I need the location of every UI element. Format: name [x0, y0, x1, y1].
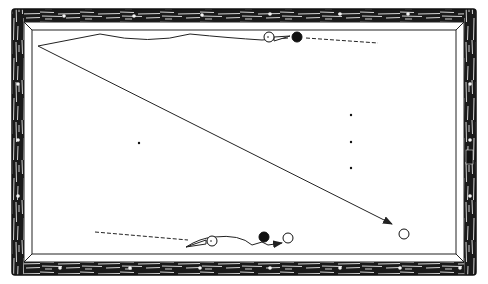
- diamond-left: [16, 194, 20, 198]
- bottom-rail: [12, 262, 476, 275]
- bottom-white-ball: [283, 233, 293, 243]
- billiards-diagram: [0, 0, 488, 284]
- bottom-cue-ball-spot: [210, 240, 212, 242]
- diamond-top: [132, 14, 136, 18]
- diamond-right: [468, 138, 472, 142]
- spot: [350, 141, 352, 143]
- diamond-bottom: [268, 266, 272, 270]
- diamond-right: [468, 194, 472, 198]
- diamond-bottom: [128, 266, 132, 270]
- top-cue-ball-spot: [267, 36, 269, 38]
- bottom-cue-ball: [207, 236, 217, 246]
- playing-surface: [32, 30, 456, 254]
- diamond-bottom: [58, 266, 62, 270]
- spot: [350, 114, 352, 116]
- diamond-top: [200, 13, 204, 17]
- diamond-bottom: [338, 266, 342, 270]
- diagram-canvas: [0, 0, 488, 284]
- diamond-top: [62, 14, 66, 18]
- diamond-top: [338, 12, 342, 16]
- table-cloth: [24, 22, 464, 262]
- diamond-top: [268, 12, 272, 16]
- top-black-ball: [292, 32, 302, 42]
- diamond-bottom: [398, 266, 402, 270]
- diamond-bottom: [198, 266, 202, 270]
- left-rail: [12, 9, 24, 275]
- diamond-right: [468, 82, 472, 86]
- diamond-left: [16, 82, 20, 86]
- diamond-left: [16, 138, 20, 142]
- right-rail: [464, 9, 476, 275]
- rail-maker-mark: [466, 150, 473, 164]
- bottom-black-ball: [259, 232, 269, 242]
- diamond-top: [406, 12, 410, 16]
- spot: [138, 142, 140, 144]
- spot: [350, 167, 352, 169]
- top-rail: [12, 9, 476, 22]
- target-ball: [399, 229, 409, 239]
- top-cue-ball: [264, 32, 274, 42]
- diamond-bottom: [458, 266, 462, 270]
